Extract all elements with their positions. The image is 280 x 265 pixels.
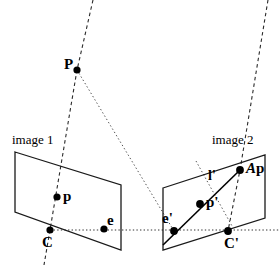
camera-center-C-prime-dot xyxy=(224,227,232,235)
mapped-point-Ap-label: Ap xyxy=(246,161,264,176)
epipole-e-prime-dot xyxy=(170,227,178,235)
dashed-ray-right xyxy=(228,0,268,231)
image-point-p-prime-label: p' xyxy=(206,195,219,210)
epipolar-geometry-figure: image 1 image 2 P p C e e' p' C' Ap l' xyxy=(0,0,280,265)
epipole-e-prime-label: e' xyxy=(162,211,173,226)
image-plane-1-label: image 1 xyxy=(12,133,54,146)
image-plane-2-label: image 2 xyxy=(212,133,254,146)
mapped-point-Ap-dot xyxy=(236,166,244,174)
scene-point-P-label: P xyxy=(64,57,73,72)
image-point-p-prime-dot xyxy=(196,200,204,208)
camera-center-C-label: C xyxy=(42,235,53,250)
image-point-p-dot xyxy=(53,193,60,200)
camera-center-C-prime-label: C' xyxy=(224,236,239,251)
epipolar-line-l-prime-label: l' xyxy=(208,169,216,183)
epipole-e-label: e xyxy=(107,213,114,228)
dotted-edge-P-to-e-prime xyxy=(77,70,174,231)
image-point-p-label: p xyxy=(63,189,71,204)
camera-center-C-dot xyxy=(46,226,53,233)
scene-point-P-dot xyxy=(73,66,80,73)
